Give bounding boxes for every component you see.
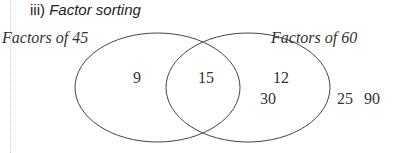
intersection-number: 15 [198,69,214,86]
outside-number: 90 [364,90,380,107]
outside-number: 25 [337,90,353,107]
left-only-number: 9 [133,69,141,86]
right-only-number: 30 [260,90,276,107]
right-set-label: Factors of 60 [270,29,357,47]
left-set-label: Factors of 45 [1,29,88,47]
right-set-ellipse [166,33,330,142]
left-set-ellipse [75,33,240,142]
right-only-number: 12 [273,69,289,86]
venn-diagram: Factors of 45 Factors of 60 9 15 12 30 2… [0,0,401,153]
